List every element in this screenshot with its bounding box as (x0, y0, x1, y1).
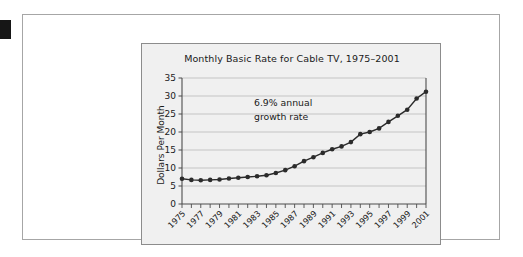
x-tick-label: 1977 (184, 208, 206, 230)
data-point (339, 144, 344, 149)
data-point (367, 130, 372, 135)
y-tick-label: 20 (165, 127, 177, 137)
x-tick-label: 1999 (391, 208, 413, 230)
data-point (208, 178, 213, 183)
data-point (264, 173, 269, 178)
data-point (245, 175, 250, 180)
data-point (320, 151, 325, 156)
y-tick-label: 25 (165, 109, 176, 119)
y-tick-label: 0 (170, 199, 176, 209)
line-chart-plot: 05101520253035 1975197719791981198319851… (142, 44, 442, 246)
x-tick-label: 1995 (353, 208, 375, 230)
annotation-line-2: growth rate (254, 111, 308, 122)
data-point (302, 159, 307, 164)
data-point (292, 164, 297, 169)
x-tick-label: 1993 (335, 208, 357, 230)
data-point (255, 174, 260, 179)
x-tick-label: 1985 (259, 208, 281, 230)
screenshot-page: Monthly Basic Rate for Cable TV, 1975–20… (0, 0, 523, 257)
annotation-line-1: 6.9% annual (254, 97, 312, 108)
data-point (217, 177, 222, 182)
x-tick-labels: 1975197719791981198319851987198919911993… (166, 208, 432, 230)
figure-outer-box: Monthly Basic Rate for Cable TV, 1975–20… (22, 14, 500, 240)
x-tick-label: 1997 (372, 208, 394, 230)
data-point (405, 107, 410, 112)
y-tick-label: 10 (165, 163, 177, 173)
data-point (358, 132, 363, 137)
data-point (424, 89, 429, 94)
gridlines (182, 78, 426, 186)
x-tick-label: 1989 (297, 208, 319, 230)
y-tick-label: 15 (165, 145, 176, 155)
data-point (283, 168, 288, 173)
data-point (396, 114, 401, 119)
data-point (198, 178, 203, 183)
data-point (377, 126, 382, 131)
left-edge-marker (0, 20, 11, 39)
x-tick-label: 1975 (166, 208, 188, 230)
x-tick-label: 1981 (222, 208, 244, 230)
data-point (227, 176, 232, 181)
data-point (349, 140, 354, 145)
data-point (311, 155, 316, 160)
y-tick-label: 35 (165, 73, 176, 83)
y-tick-label: 30 (165, 91, 177, 101)
chart-panel: Monthly Basic Rate for Cable TV, 1975–20… (141, 43, 441, 245)
x-tick-label: 1979 (203, 208, 225, 230)
data-point (414, 96, 419, 101)
x-tick-label: 2001 (410, 208, 432, 230)
data-point (386, 120, 391, 125)
y-tick-labels: 05101520253035 (165, 73, 177, 209)
data-point (274, 171, 279, 176)
data-point (189, 178, 194, 183)
data-point (236, 175, 241, 180)
x-tick-label: 1983 (241, 208, 263, 230)
x-tick-label: 1987 (278, 208, 300, 230)
y-tick-label: 5 (170, 181, 176, 191)
x-tick-marks (182, 204, 426, 208)
data-point (330, 147, 335, 152)
x-tick-label: 1991 (316, 208, 338, 230)
data-point (180, 177, 185, 182)
